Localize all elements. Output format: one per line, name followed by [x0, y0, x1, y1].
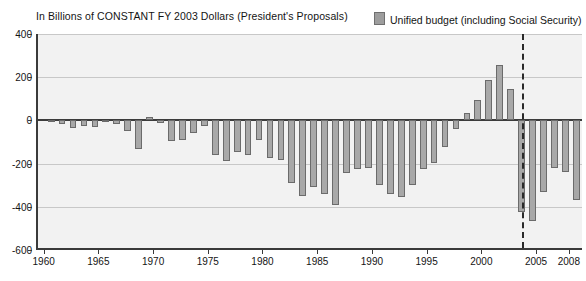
plot-canvas — [38, 34, 582, 248]
bar — [387, 120, 394, 193]
y-axis-tick — [28, 77, 32, 78]
legend-label: Unified budget (including Social Securit… — [390, 14, 581, 26]
bar — [464, 113, 471, 121]
bar — [453, 120, 460, 129]
projection-divider-line — [522, 34, 524, 248]
gridline — [38, 34, 582, 35]
bar — [299, 120, 306, 196]
bar — [256, 120, 263, 139]
chart-legend: Unified budget (including Social Securit… — [374, 10, 581, 28]
x-axis-label: 1990 — [361, 256, 383, 267]
bar — [365, 120, 372, 168]
x-axis-label: 1995 — [416, 256, 438, 267]
y-axis-tick — [28, 250, 32, 251]
y-axis: 4002000-200-400-600 — [0, 34, 32, 250]
bar — [573, 120, 580, 200]
bar — [332, 120, 339, 204]
bar — [102, 120, 109, 122]
x-axis-label: 2000 — [470, 256, 492, 267]
bar — [135, 120, 142, 149]
bar — [376, 120, 383, 185]
bar — [310, 120, 317, 187]
chart-header: In Billions of CONSTANT FY 2003 Dollars … — [0, 10, 586, 30]
bar — [321, 120, 328, 193]
bar — [81, 120, 88, 125]
x-axis-tick — [569, 250, 570, 254]
bar — [551, 120, 558, 168]
bar — [496, 65, 503, 120]
bar — [507, 89, 514, 120]
bar — [288, 120, 295, 183]
bar — [92, 120, 99, 127]
bar — [431, 120, 438, 162]
chart-title: In Billions of CONSTANT FY 2003 Dollars … — [36, 10, 348, 22]
bar — [168, 120, 175, 141]
bar — [234, 120, 241, 151]
plot-area — [36, 34, 582, 250]
bar — [179, 120, 186, 140]
bar — [398, 120, 405, 197]
x-axis-tick — [262, 250, 263, 254]
x-axis-tick — [44, 250, 45, 254]
bar — [278, 120, 285, 160]
x-axis-tick — [427, 250, 428, 254]
bar — [190, 120, 197, 133]
bar — [48, 120, 55, 122]
x-axis-tick — [98, 250, 99, 254]
gridline — [38, 207, 582, 208]
bar — [267, 120, 274, 158]
bar — [70, 120, 77, 128]
legend-swatch-icon — [374, 12, 385, 25]
x-axis-tick — [208, 250, 209, 254]
y-axis-tick — [28, 207, 32, 208]
bar — [409, 120, 416, 185]
bar — [124, 120, 131, 130]
x-axis-tick — [153, 250, 154, 254]
bar — [354, 120, 361, 169]
bar — [212, 120, 219, 155]
x-axis-tick — [372, 250, 373, 254]
bar — [474, 100, 481, 121]
bar — [245, 120, 252, 155]
x-axis-tick — [536, 250, 537, 254]
y-axis-tick — [28, 120, 32, 121]
x-axis-label: 1985 — [306, 256, 328, 267]
x-axis-tick — [481, 250, 482, 254]
x-axis-label: 1980 — [251, 256, 273, 267]
x-axis-tick — [317, 250, 318, 254]
y-axis-tick — [28, 34, 32, 35]
bar — [157, 120, 164, 123]
bar — [343, 120, 350, 173]
bar — [540, 120, 547, 191]
bar — [59, 120, 66, 124]
y-axis-tick — [28, 164, 32, 165]
x-axis-label: 2005 — [525, 256, 547, 267]
bar — [420, 120, 427, 169]
x-axis-label: 1960 — [33, 256, 55, 267]
bar — [562, 120, 569, 172]
bar — [113, 120, 120, 124]
x-axis-label: 2008 — [558, 256, 580, 267]
bar — [485, 80, 492, 120]
bar — [529, 120, 536, 220]
bar — [223, 120, 230, 161]
bar — [442, 120, 449, 147]
x-axis-label: 1970 — [142, 256, 164, 267]
x-axis-label: 1965 — [87, 256, 109, 267]
bar — [201, 120, 208, 126]
x-axis: 1960196519701975198019851990199520002005… — [36, 250, 582, 276]
bar — [146, 117, 153, 120]
x-axis-label: 1975 — [197, 256, 219, 267]
chart-page: In Billions of CONSTANT FY 2003 Dollars … — [0, 0, 586, 281]
